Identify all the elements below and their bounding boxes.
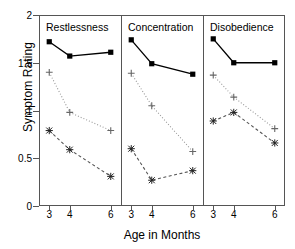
panel-divider [121,16,122,205]
panel-title-restlessness: Restlessness [46,21,108,33]
x-tick-mark [193,206,194,210]
panel-divider [203,16,204,205]
y-tick-label: 0.5 [0,153,32,164]
x-tick-label: 6 [101,209,121,220]
x-tick-mark [152,206,153,210]
y-tick-mark [33,158,39,159]
x-tick-mark [213,206,214,210]
y-tick-label: 1.5 [0,57,32,68]
panel-title-disobedience: Disobedience [210,21,274,33]
x-tick-mark [70,206,71,210]
y-tick-mark [33,206,39,207]
x-tick-mark [49,206,50,210]
y-tick-mark [33,63,39,64]
y-tick-mark [33,15,39,16]
x-tick-mark [234,206,235,210]
panel-title-concentration: Concentration [128,21,193,33]
chart-figure: Symptom Rating Age in Months Restlessnes… [0,0,295,249]
y-tick-mark [33,111,39,112]
x-axis-title: Age in Months [39,228,285,242]
x-tick-label: 3 [121,209,141,220]
x-tick-label: 6 [265,209,285,220]
x-tick-label: 4 [60,209,80,220]
plot-area [39,15,285,206]
x-tick-mark [131,206,132,210]
y-tick-label: 1 [0,105,32,116]
y-axis-title: Symptom Rating [21,7,35,167]
x-tick-mark [275,206,276,210]
x-tick-label: 6 [183,209,203,220]
x-tick-label: 3 [203,209,223,220]
x-tick-mark [111,206,112,210]
y-tick-label: 0 [0,201,32,212]
x-tick-label: 4 [224,209,244,220]
x-tick-label: 4 [142,209,162,220]
x-tick-label: 3 [39,209,59,220]
y-tick-label: 2 [0,10,32,21]
